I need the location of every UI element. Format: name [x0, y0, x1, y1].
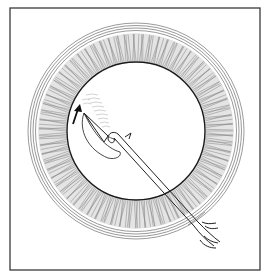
- eye-surgery-illustration: [0, 0, 269, 280]
